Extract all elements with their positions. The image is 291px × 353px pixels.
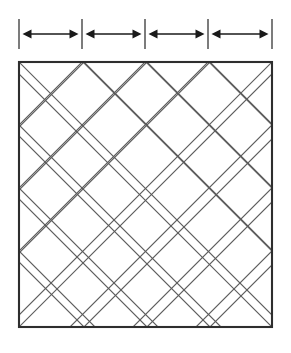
outer-square-border xyxy=(19,62,272,327)
dimension-arrow-3 xyxy=(149,29,205,38)
arrow-head-left-2 xyxy=(86,29,95,38)
arrow-head-left-3 xyxy=(149,29,158,38)
arrow-head-right-3 xyxy=(196,29,205,38)
dimension-arrow-1 xyxy=(23,29,79,38)
figure-root xyxy=(0,0,291,353)
diagram-canvas xyxy=(0,0,291,353)
dimension-arrow-4 xyxy=(212,29,269,38)
arrow-head-right-4 xyxy=(260,29,269,38)
arrow-head-right-2 xyxy=(133,29,142,38)
lattice-group xyxy=(19,62,272,327)
arrow-head-right-1 xyxy=(70,29,79,38)
arrow-head-left-1 xyxy=(23,29,32,38)
arrow-head-left-4 xyxy=(212,29,221,38)
dimension-arrow-2 xyxy=(86,29,142,38)
